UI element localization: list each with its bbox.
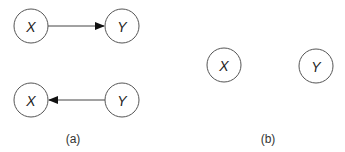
panel-b-caption: (b) [261, 132, 276, 146]
node-x: X [14, 9, 48, 43]
causal-diagram: X Y X Y (a) X Y (b) [0, 0, 345, 152]
node-x-label: X [25, 19, 36, 35]
panel-a-graph-2: X Y [14, 83, 139, 117]
node-x-label: X [25, 93, 36, 109]
node-y: Y [105, 9, 139, 43]
node-x: X [14, 83, 48, 117]
node-y: Y [299, 49, 333, 83]
panel-b-graph: X Y [207, 48, 333, 83]
node-x-label: X [218, 58, 229, 74]
panel-a-caption: (a) [66, 132, 81, 146]
node-x: X [207, 48, 241, 82]
panel-a-graph-1: X Y [14, 9, 139, 43]
node-y: Y [105, 83, 139, 117]
